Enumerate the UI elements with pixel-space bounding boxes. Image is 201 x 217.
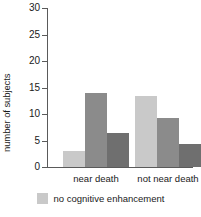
- y-tick-mark: [42, 141, 47, 142]
- legend-item: no cognitive enhancement: [37, 192, 165, 205]
- y-tick-mark: [42, 167, 47, 168]
- bar-chart-figure: number of subjects 051015202530 near dea…: [0, 0, 201, 217]
- y-tick-label: 10: [29, 107, 40, 120]
- y-tick-mark: [42, 114, 47, 115]
- y-axis-line: [47, 8, 48, 167]
- legend-label: no cognitive enhancement: [54, 192, 165, 205]
- x-axis-line: [47, 167, 193, 168]
- bar: [107, 133, 129, 167]
- y-tick-label: 15: [29, 81, 40, 94]
- y-tick-label: 0: [34, 160, 40, 173]
- chart-legend: no cognitive enhancement: [0, 192, 201, 205]
- bar: [63, 151, 85, 167]
- y-tick-mark: [42, 35, 47, 36]
- y-tick-label: 25: [29, 28, 40, 41]
- bar: [85, 93, 107, 167]
- y-tick-label: 5: [34, 134, 40, 147]
- y-tick-label: 30: [29, 1, 40, 14]
- bar: [135, 96, 157, 167]
- y-tick-mark: [42, 88, 47, 89]
- y-tick-label: 20: [29, 54, 40, 67]
- legend-swatch-icon: [37, 193, 48, 204]
- bar: [157, 118, 179, 167]
- y-tick-mark: [42, 61, 47, 62]
- bar: [179, 144, 201, 167]
- y-tick-mark: [42, 8, 47, 9]
- plot-area: 051015202530: [47, 8, 193, 167]
- x-axis-category-label: not near death: [118, 172, 201, 185]
